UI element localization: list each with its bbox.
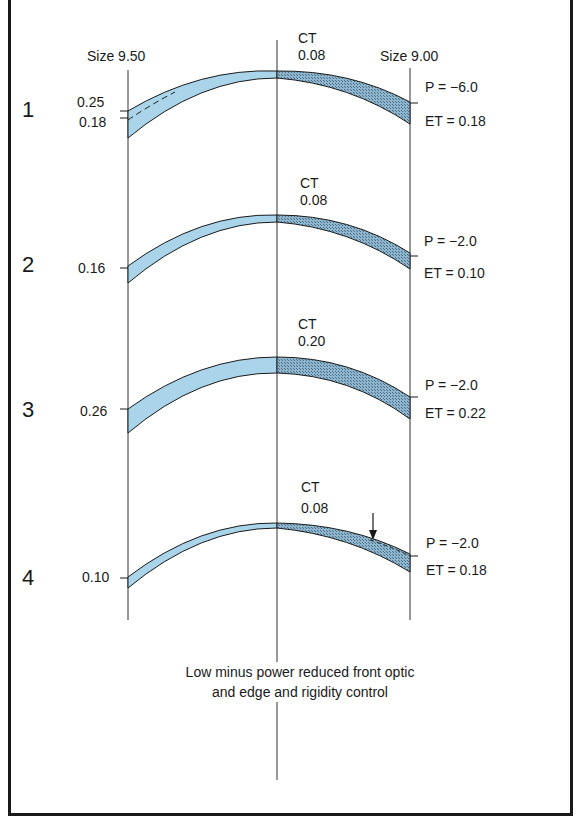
ct-label: CT — [298, 30, 317, 46]
edge-label-top: 0.25 — [77, 94, 104, 110]
edge-label: 0.10 — [82, 569, 109, 585]
power-label: P = −6.0 — [425, 79, 478, 95]
caption-line-1: Low minus power reduced front optic — [150, 662, 450, 682]
power-label: P = −2.0 — [425, 377, 478, 393]
ct-label: CT — [300, 175, 319, 191]
ct-label: CT — [298, 316, 317, 332]
edge-label: 0.16 — [78, 260, 105, 276]
left-size-label: Size 9.50 — [87, 48, 145, 64]
lens-number: 3 — [22, 398, 34, 422]
ct-value: 0.08 — [300, 192, 327, 208]
edge-thickness-label: ET = 0.18 — [425, 113, 486, 129]
edge-label: 0.26 — [80, 403, 107, 419]
lens-3 — [120, 357, 418, 433]
lens-1 — [120, 71, 418, 138]
edge-thickness-label: ET = 0.22 — [425, 405, 486, 421]
lens-number: 2 — [22, 253, 34, 277]
power-label: P = −2.0 — [426, 535, 479, 551]
figure-caption: Low minus power reduced front optic and … — [150, 662, 450, 702]
right-size-label: Size 9.00 — [380, 48, 438, 64]
lens-number: 1 — [22, 98, 34, 122]
ct-value: 0.08 — [298, 47, 325, 63]
lens-2 — [120, 215, 418, 283]
lens-4 — [120, 513, 418, 588]
edge-label-bottom: 0.18 — [79, 114, 106, 130]
ct-label: CT — [301, 479, 320, 495]
power-label: P = −2.0 — [424, 233, 477, 249]
lens-number: 4 — [22, 566, 34, 590]
caption-line-2: and edge and rigidity control — [150, 682, 450, 702]
ct-value: 0.08 — [301, 500, 328, 516]
edge-thickness-label: ET = 0.18 — [426, 562, 487, 578]
edge-thickness-label: ET = 0.10 — [424, 265, 485, 281]
ct-value: 0.20 — [298, 333, 325, 349]
down-arrow-icon — [369, 513, 377, 540]
